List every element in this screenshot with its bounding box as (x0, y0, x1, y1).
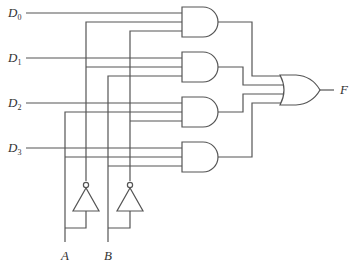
label-d2: D2 (7, 95, 21, 112)
inverter-b (117, 182, 143, 211)
label-d0: D0 (7, 5, 21, 22)
and-gate-2 (182, 97, 218, 127)
and-gate-3 (182, 142, 218, 172)
label-a: A (60, 248, 69, 263)
label-d1: D1 (7, 50, 21, 67)
wire-a (65, 112, 182, 242)
inversion-bubble-icon (127, 182, 132, 187)
inverter-a (73, 182, 99, 211)
wire-and0-out (218, 22, 283, 76)
label-d3: D3 (7, 140, 21, 157)
or-gate (280, 75, 320, 105)
label-b: B (104, 248, 112, 263)
wire-b (108, 76, 182, 242)
label-f: F (339, 82, 349, 97)
and-gate-1 (182, 52, 218, 82)
wire-b-to-inverter (108, 211, 130, 228)
and-gate-0 (182, 7, 218, 37)
wire-a-to-inverter (65, 211, 86, 228)
wire-and3-out (218, 103, 283, 157)
wire-b-not (130, 31, 182, 181)
mux-diagram: D0 D1 D2 D3 A B F (0, 0, 352, 267)
inversion-bubble-icon (83, 182, 88, 187)
